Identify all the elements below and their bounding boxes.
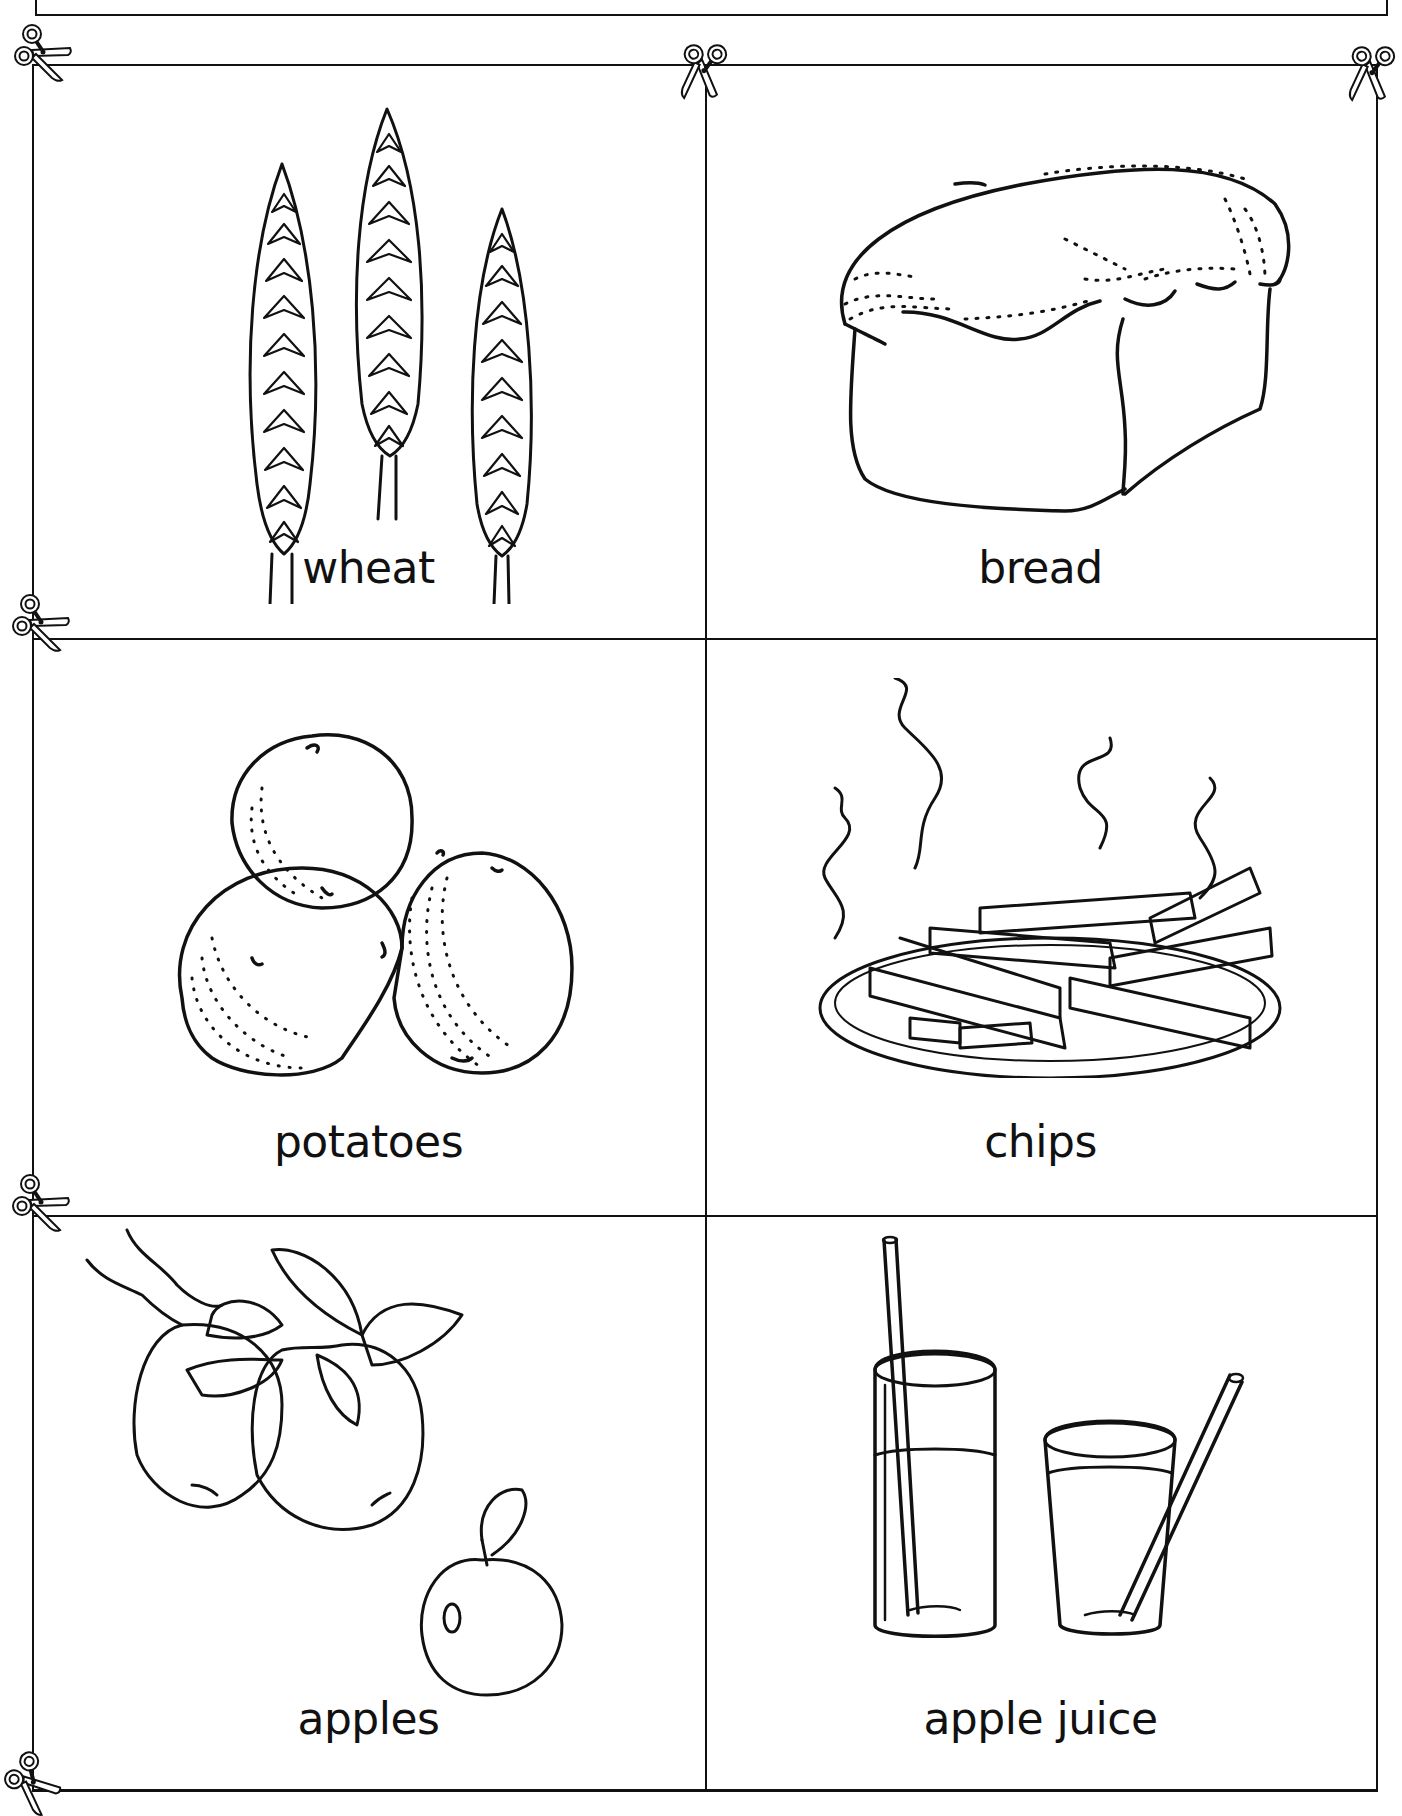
card-chips[interactable]: chips <box>705 638 1376 1215</box>
scissors-icon <box>12 22 74 84</box>
card-label: wheat <box>32 542 705 593</box>
chips-on-plate-illustration <box>810 678 1290 1078</box>
scissors-icon <box>10 1172 72 1234</box>
potatoes-illustration <box>162 728 582 1088</box>
glasses-of-juice-illustration <box>870 1235 1290 1655</box>
top-instruction-box <box>35 0 1388 16</box>
card-apple-juice[interactable]: apple juice <box>705 1215 1376 1789</box>
apples-on-branch-illustration <box>82 1225 682 1725</box>
cut-line-right <box>1376 64 1378 1791</box>
wheat-illustration <box>212 104 572 604</box>
bread-loaf-illustration <box>805 149 1295 519</box>
card-wheat[interactable]: wheat <box>32 64 705 638</box>
card-label: apple juice <box>705 1693 1376 1744</box>
card-potatoes[interactable]: potatoes <box>32 638 705 1215</box>
card-apples[interactable]: apples <box>32 1215 705 1789</box>
card-label: chips <box>705 1116 1376 1167</box>
flashcard-grid: wheat <box>32 64 1378 1791</box>
card-bread[interactable]: bread <box>705 64 1376 638</box>
card-label: apples <box>32 1693 705 1744</box>
scissors-icon <box>10 592 72 654</box>
card-label: potatoes <box>32 1116 705 1167</box>
card-label: bread <box>705 542 1376 593</box>
